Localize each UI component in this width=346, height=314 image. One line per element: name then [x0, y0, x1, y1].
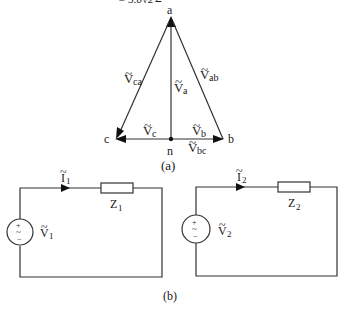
svg-text:2: 2: [227, 229, 232, 239]
svg-text:= 5.0√2∠°: = 5.0√2∠°: [118, 0, 168, 5]
svg-text:bc: bc: [197, 145, 207, 156]
svg-text:V: V: [218, 224, 227, 238]
svg-text:−: −: [17, 235, 22, 244]
svg-text:1: 1: [118, 203, 123, 213]
node-n-dot: [169, 137, 173, 141]
svg-text:I: I: [237, 170, 241, 184]
caption-b: (b): [163, 289, 177, 303]
label-i2: ~ I 2: [236, 164, 247, 185]
circuit-left: + ~ − ~ I 1 Z 1 ~ V 1: [7, 165, 162, 277]
svg-text:2: 2: [242, 175, 247, 185]
svg-text:2: 2: [296, 202, 301, 212]
svg-text:ab: ab: [209, 72, 218, 83]
svg-text:Z: Z: [288, 196, 295, 210]
label-vc: ~ V c: [143, 118, 157, 139]
node-b-label: b: [228, 132, 234, 146]
node-c-label: c: [104, 132, 109, 146]
svg-text:c: c: [152, 128, 157, 139]
label-v2: ~ V 2: [218, 218, 232, 239]
top-text-fragment: = 5.0√2∠°: [118, 0, 168, 5]
circuit-right: + ~ − ~ I 2 Z 2 ~ V 2: [182, 164, 337, 276]
label-vca: ~ V ca: [124, 66, 142, 87]
label-z2: Z 2: [288, 196, 301, 212]
svg-text:I: I: [61, 171, 65, 185]
phasor-diagram: a c b n ~ V ca ~ V ab ~ V a ~ V c ~ V b: [104, 3, 234, 173]
svg-text:−: −: [193, 232, 198, 241]
label-v1: ~ V 1: [40, 220, 54, 241]
impedance-z1-icon: [101, 183, 133, 193]
label-i1: ~ I 1: [60, 165, 71, 186]
figure: = 5.0√2∠° a c b n ~ V ca ~ V ab: [0, 0, 346, 314]
svg-text:1: 1: [49, 231, 54, 241]
label-z1: Z 1: [110, 197, 123, 213]
svg-text:a: a: [183, 85, 188, 96]
node-a-label: a: [167, 3, 173, 17]
svg-text:1: 1: [66, 176, 71, 186]
caption-a: (a): [161, 158, 175, 173]
svg-text:b: b: [201, 128, 206, 139]
svg-text:Z: Z: [110, 197, 117, 211]
label-va: ~ V a: [174, 74, 188, 96]
label-vab: ~ V ab: [200, 62, 218, 83]
svg-text:ca: ca: [133, 76, 142, 87]
svg-text:V: V: [40, 226, 49, 240]
impedance-z2-icon: [278, 182, 310, 192]
node-n-label: n: [167, 144, 173, 158]
